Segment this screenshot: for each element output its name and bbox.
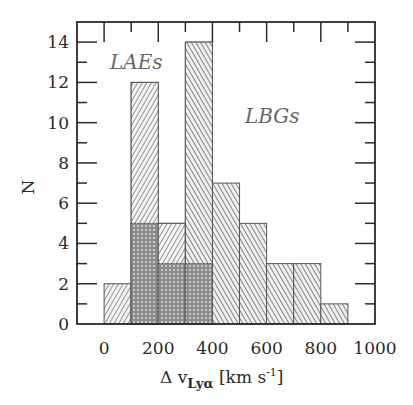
bar-laes xyxy=(104,284,131,324)
x-tick-label: 600 xyxy=(250,338,282,358)
y-tick-label: 8 xyxy=(58,153,69,173)
x-tick-label: 200 xyxy=(142,338,174,358)
y-tick-label: 6 xyxy=(58,193,69,213)
x-axis-title: Δ vLyα [km s-1] xyxy=(160,366,284,391)
histogram-chart: 0200400600800100002468101214 NΔ vLyα [km… xyxy=(0,0,413,405)
y-tick-label: 14 xyxy=(47,32,69,52)
y-tick-label: 2 xyxy=(58,274,69,294)
y-tick-label: 4 xyxy=(58,233,69,253)
x-tick-label: 400 xyxy=(196,338,228,358)
bars-layer xyxy=(104,42,348,324)
annotation-laes: LAEs xyxy=(109,50,163,74)
bar-lbgs xyxy=(240,223,267,324)
bar-overlap xyxy=(158,264,185,324)
bar-overlap xyxy=(131,223,158,324)
x-tick-label: 800 xyxy=(305,338,337,358)
bar-lbgs xyxy=(267,264,294,324)
y-axis-title: N xyxy=(18,180,38,195)
y-tick-label: 0 xyxy=(58,314,69,334)
bar-lbgs xyxy=(212,183,239,324)
bar-overlap xyxy=(185,264,212,324)
annotation-lbgs: LBGs xyxy=(244,104,300,128)
bar-lbgs xyxy=(294,264,321,324)
x-tick-label: 1000 xyxy=(353,338,396,358)
x-tick-label: 0 xyxy=(99,338,110,358)
y-tick-label: 12 xyxy=(47,72,69,92)
bar-lbgs xyxy=(321,304,348,324)
y-tick-label: 10 xyxy=(47,113,69,133)
